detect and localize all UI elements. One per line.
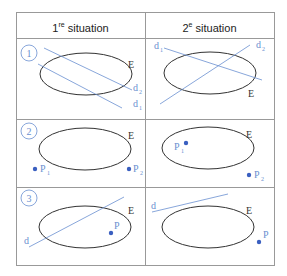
row3-right-figure: d E P [151, 194, 269, 248]
label-d: d [24, 235, 29, 246]
row2-right-figure: E P 1 P 2 [162, 127, 264, 182]
point-P [109, 231, 113, 235]
label-d1-sub: 1 [139, 105, 142, 111]
line-d [152, 194, 228, 212]
row-number-2: 2 [27, 126, 32, 137]
label-P: P [263, 229, 269, 240]
point-P [257, 240, 261, 244]
row-number-3: 3 [27, 193, 32, 204]
label-P2-sub: 2 [261, 176, 264, 182]
line-d2 [44, 48, 132, 90]
ellipse-E [164, 52, 256, 94]
label-P2: P [254, 169, 260, 180]
label-d1-sub: 1 [160, 47, 163, 53]
label-P2-sub: 2 [140, 170, 143, 176]
row3-left-figure: 3 d E P [21, 190, 134, 248]
row1-left-figure: 1 E d 2 d 1 [21, 45, 142, 111]
ellipse-E [162, 206, 254, 248]
point-P1 [33, 167, 37, 171]
label-P1-sub: 1 [47, 170, 50, 176]
label-P2: P [133, 163, 139, 174]
label-E: E [128, 205, 134, 216]
line-d1 [164, 48, 262, 80]
label-P1-sub: 1 [181, 148, 184, 154]
line-d [29, 197, 124, 247]
label-d1: d [154, 40, 159, 51]
table-grid [17, 13, 275, 266]
label-P: P [114, 220, 120, 231]
label-P1: P [40, 163, 46, 174]
line-d1 [38, 64, 122, 108]
label-d1: d [133, 98, 138, 109]
label-E: E [128, 130, 134, 141]
label-E: E [246, 129, 252, 140]
row1-right-figure: d 1 d 2 E [154, 39, 265, 104]
label-P1: P [174, 141, 180, 152]
diagram-table: 1 E d 2 d 1 d 1 d 2 E 2 E P 1 P 2 E P [0, 0, 287, 276]
label-d2-sub: 2 [139, 89, 142, 95]
label-E: E [248, 88, 254, 99]
point-P2 [247, 173, 251, 177]
row2-left-figure: 2 E P 1 P 2 [21, 123, 143, 176]
point-P2 [127, 167, 131, 171]
label-d: d [151, 200, 156, 211]
label-d2-sub: 2 [262, 46, 265, 52]
label-E: E [128, 59, 134, 70]
label-E: E [246, 205, 252, 216]
label-d2: d [256, 39, 261, 50]
row-number-1: 1 [27, 48, 32, 59]
line-d2 [160, 45, 250, 104]
point-P1 [184, 141, 188, 145]
label-d2: d [133, 82, 138, 93]
ellipse-E [39, 128, 131, 170]
